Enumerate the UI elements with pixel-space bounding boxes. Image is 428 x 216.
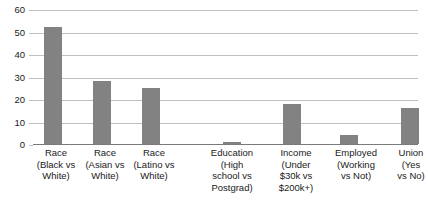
x-label-race-latino-vs-white: Race (Latino vs White) [117,147,191,182]
gridline-40 [33,55,418,56]
bar-race-asian-vs-white [93,81,111,144]
x-label-union: Union (Yes vs No) [385,147,428,182]
x-label-employed: Employed (Working vs Not) [325,147,387,182]
y-tick-label-30: 30 [0,73,25,83]
bar-union [401,108,419,144]
gridline-60 [33,10,418,11]
x-label-education: Education (High school vs Postgrad) [199,147,265,193]
gridline-20 [33,100,418,101]
plot-area [33,10,418,145]
bar-income [283,104,301,145]
y-tick-label-10: 10 [0,118,25,128]
y-tick-label-50: 50 [0,28,25,38]
y-tick-mark-0 [29,145,33,146]
gridline-30 [33,78,418,79]
y-tick-label-20: 20 [0,95,25,105]
bar-employed [340,135,358,144]
gridline-50 [33,33,418,34]
x-label-income: Income (Under $30k vs $200k+) [266,147,326,193]
gridline-10 [33,123,418,124]
bar-chart: 60 50 40 30 20 10 0 Race (Black [0,0,428,216]
y-axis: 60 50 40 30 20 10 0 [0,10,29,145]
y-tick-label-40: 40 [0,50,25,60]
y-tick-label-60: 60 [0,5,25,15]
axis-baseline [33,144,418,145]
bar-education [223,142,241,144]
bar-race-black-vs-white [44,27,62,144]
x-axis-labels: Race (Black vs White) Race (Asian vs Whi… [33,147,418,216]
bar-race-latino-vs-white [142,88,160,144]
